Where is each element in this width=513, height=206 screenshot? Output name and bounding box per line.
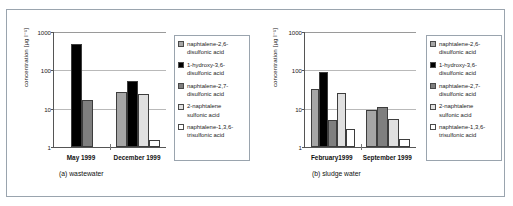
legend-label-line1: naphtalene-2,6- [439,41,480,47]
legend-item-nts136: naphtalene-1,3,6-trisulfonic acid [178,123,246,140]
panel-caption-b: (b) sludge water [312,170,361,177]
bar-nds27-september-1999-b [377,107,388,147]
y-tick-label-1-a: 1 [48,144,51,151]
legend-label-line2: sulfonic acid [187,112,219,118]
legend-item-nds26: naphtalene-2,6-disulfonic acid [430,40,498,57]
legend-item-h136: 1-hydroxy-3,6-disulfonic acid [178,61,246,78]
y-tick-mark-10-a [51,109,54,110]
y-tick-mark-10-b [302,109,305,110]
legend-label-line1: naphtalene-1,3,6- [439,124,485,130]
legend-label-line1: naphtalene-2,7- [439,83,480,89]
y-tick-mark-1-b [302,147,305,148]
legend-label-line2: disulfonic acid [439,91,476,97]
bar-ns2-september-1999-b [388,119,399,147]
legend-swatch-h136 [178,62,184,68]
x-axis-separator-a [110,144,111,150]
legend-item-nds27: naphtalene-2,7-disulfonic acid [430,82,498,99]
bar-h136-may-1999-a [71,44,82,147]
bar-h136-december-1999-a [127,81,138,147]
figure-frame: concentration [µg l⁻¹] 1101001000 (a) wa… [6,9,505,197]
y-axis-title-b: concentration [µg l⁻¹] [271,10,278,106]
plot-area-a: 1101001000 [53,32,166,148]
chart-panel-wastewater: concentration [µg l⁻¹] 1101001000 (a) wa… [7,10,256,196]
bar-nts136-february1999-b [346,129,355,147]
legend-swatch-nts136 [430,124,436,130]
legend-label-line1: 1-hydroxy-3,6- [187,62,225,68]
legend-item-nds27: naphtalene-2,7-disulfonic acid [178,82,246,99]
y-tick-mark-100-a [51,70,54,71]
bar-ns2-december-1999-a [138,94,149,147]
y-axis-title-a: concentration [µg l⁻¹] [22,10,29,106]
legend-label-line1: naphtalene-1,3,6- [187,124,233,130]
legend-swatch-nds27 [430,83,436,89]
legend-item-ns2: 2-naphtalenesulfonic acid [178,102,246,119]
y-tick-label-10-b: 10 [295,105,302,112]
legend-swatch-ns2 [178,104,184,110]
plot-area-b: 1101001000 [304,32,416,148]
legend-a: naphtalene-2,6-disulfonic acid1-hydroxy-… [174,35,250,161]
x-axis-group-label-september-1999-b: September 1999 [363,154,412,161]
y-tick-label-1-b: 1 [299,144,302,151]
legend-label-line2: disulfonic acid [187,49,224,55]
y-tick-label-1000-a: 1000 [37,29,51,36]
legend-label-line2: disulfonic acid [439,70,476,76]
legend-label-line1: naphtalene-2,6- [187,41,228,47]
y-tick-mark-1-a [51,147,54,148]
panel-caption-a: (a) wastewater [59,170,104,177]
legend-label-line1: 2-naphtalene [439,103,473,109]
bar-nds27-february1999-b [328,120,337,147]
legend-swatch-nds26 [178,41,184,47]
legend-label-line2: disulfonic acid [187,70,224,76]
bar-nds26-february1999-b [311,89,320,147]
x-axis-group-label-may-1999-a: May 1999 [67,154,95,161]
legend-b: naphtalene-2,6-disulfonic acid1-hydroxy-… [426,35,502,161]
x-axis-group-label-december-1999-a: December 1999 [114,154,161,161]
legend-label-line2: trisulfonic acid [439,132,476,138]
bar-nts136-december-1999-a [149,140,160,147]
bar-nts136-september-1999-b [399,139,410,147]
legend-label-line1: 2-naphtalene [187,103,221,109]
y-tick-mark-1000-a [51,32,54,33]
legend-label-line1: 1-hydroxy-3,6- [439,62,477,68]
y-tick-label-10-a: 10 [44,105,51,112]
gridline-1000-b [305,32,416,33]
legend-item-nts136: naphtalene-1,3,6-trisulfonic acid [430,123,498,140]
legend-swatch-nds27 [178,83,184,89]
bar-h136-february1999-b [319,72,328,147]
bar-ns2-february1999-b [337,93,346,147]
legend-swatch-ns2 [430,104,436,110]
y-tick-label-1000-b: 1000 [288,29,302,36]
legend-swatch-nds26 [430,41,436,47]
y-tick-mark-100-b [302,70,305,71]
y-tick-label-100-b: 100 [292,67,302,74]
bar-nds26-december-1999-a [116,92,127,147]
bar-nds26-september-1999-b [366,110,377,147]
chart-panel-sludge-water: concentration [µg l⁻¹] 1101001000 (b) sl… [256,10,505,196]
x-axis-group-label-february1999-b: February1999 [311,154,353,161]
bar-nds27-may-1999-a [82,100,93,147]
y-tick-label-100-a: 100 [41,67,51,74]
legend-swatch-h136 [430,62,436,68]
y-tick-mark-1000-b [302,32,305,33]
legend-label-line2: trisulfonic acid [187,132,224,138]
legend-item-nds26: naphtalene-2,6-disulfonic acid [178,40,246,57]
legend-label-line1: naphtalene-2,7- [187,83,228,89]
gridline-1000-a [54,32,166,33]
legend-label-line2: sulfonic acid [439,112,471,118]
legend-item-h136: 1-hydroxy-3,6-disulfonic acid [430,61,498,78]
legend-item-ns2: 2-naphtalenesulfonic acid [430,102,498,119]
x-axis-separator-b [361,144,362,150]
legend-label-line2: disulfonic acid [187,91,224,97]
legend-swatch-nts136 [178,124,184,130]
legend-label-line2: disulfonic acid [439,49,476,55]
